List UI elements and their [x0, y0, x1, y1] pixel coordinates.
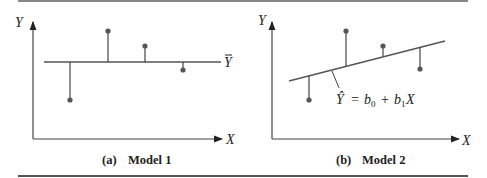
- eq-sub1: 1: [401, 99, 406, 109]
- data-point: [142, 43, 147, 48]
- caption-title: Model 1: [128, 153, 171, 167]
- label-leader-line: [332, 71, 339, 88]
- data-point: [343, 28, 348, 33]
- panel-a: Y X Y (a) Model 1: [15, 15, 235, 167]
- eq-sub0: 0: [371, 99, 376, 109]
- eq-b1: b: [394, 92, 401, 107]
- caption-letter: (b): [336, 153, 351, 167]
- y-axis-label: Y: [258, 13, 268, 28]
- eq-plus: +: [381, 92, 389, 107]
- eq-x: X: [405, 92, 415, 107]
- data-point: [417, 66, 422, 71]
- eq-b0: b: [364, 92, 371, 107]
- data-point: [105, 28, 110, 33]
- bottom-rule: [18, 175, 468, 177]
- data-point: [67, 97, 72, 102]
- data-point: [306, 97, 311, 102]
- y-axis-label: Y: [15, 15, 25, 30]
- x-axis-label: X: [461, 133, 471, 148]
- panel-b: Y X Ŷ = b 0 + b 1 X (b) Model 2: [258, 13, 471, 167]
- data-point: [380, 43, 385, 48]
- x-axis-label: X: [225, 132, 235, 147]
- caption-title: Model 2: [362, 153, 405, 167]
- regression-line: [289, 41, 445, 81]
- figure-canvas: Y X Y (a) Model 1 Y X: [0, 0, 487, 178]
- eq-yhat: Ŷ: [336, 91, 346, 107]
- caption-letter: (a): [102, 153, 117, 167]
- data-point: [180, 67, 185, 72]
- regression-equation: Ŷ = b 0 + b 1 X: [336, 91, 415, 109]
- eq-equals: =: [351, 92, 359, 107]
- mean-line-label: Y: [224, 55, 234, 70]
